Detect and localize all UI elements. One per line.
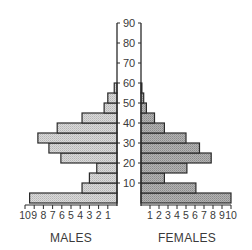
male-tick-label: 2 bbox=[96, 209, 102, 221]
axes: 1020304050607080901098765432112345678910 bbox=[19, 17, 237, 221]
male-tick-label: 10 bbox=[19, 209, 31, 221]
male-tick-label: 3 bbox=[86, 209, 92, 221]
age-tick-label: 10 bbox=[123, 177, 135, 189]
age-tick-label: 50 bbox=[123, 97, 135, 109]
female-bar-5-10 bbox=[141, 183, 196, 193]
male-tick-label: 4 bbox=[77, 209, 83, 221]
female-bar-35-40 bbox=[141, 123, 164, 133]
female-tick-label: 7 bbox=[201, 209, 207, 221]
male-bars bbox=[30, 83, 117, 203]
age-tick-label: 40 bbox=[123, 117, 135, 129]
male-bar-5-10 bbox=[82, 183, 117, 193]
female-bar-25-30 bbox=[141, 143, 200, 153]
male-tick-label: 5 bbox=[68, 209, 74, 221]
male-tick-label: 8 bbox=[40, 209, 46, 221]
male-bar-45-50 bbox=[104, 103, 117, 113]
male-bar-40-45 bbox=[82, 113, 117, 123]
male-bar-35-40 bbox=[57, 123, 117, 133]
female-tick-label: 4 bbox=[174, 209, 180, 221]
male-tick-label: 7 bbox=[50, 209, 56, 221]
female-tick-label: 10 bbox=[225, 209, 237, 221]
population-pyramid-chart: 1020304050607080901098765432112345678910… bbox=[0, 0, 252, 250]
female-bar-15-20 bbox=[141, 163, 187, 173]
male-tick-label: 9 bbox=[31, 209, 37, 221]
female-bar-0-5 bbox=[141, 193, 231, 203]
female-bar-10-15 bbox=[141, 173, 164, 183]
male-bar-30-35 bbox=[38, 133, 117, 143]
female-axis-title: FEMALES bbox=[158, 231, 216, 245]
age-tick-label: 90 bbox=[123, 17, 135, 29]
age-tick-label: 60 bbox=[123, 77, 135, 89]
male-bar-15-20 bbox=[97, 163, 117, 173]
male-bar-50-55 bbox=[108, 93, 117, 103]
female-tick-label: 3 bbox=[165, 209, 171, 221]
male-bar-10-15 bbox=[89, 173, 117, 183]
male-bar-20-25 bbox=[61, 153, 117, 163]
female-bar-45-50 bbox=[141, 103, 146, 113]
age-tick-label: 20 bbox=[123, 157, 135, 169]
male-axis-title: MALES bbox=[50, 231, 92, 245]
female-bar-30-35 bbox=[141, 133, 186, 143]
male-tick-label: 1 bbox=[105, 209, 111, 221]
male-tick-label: 6 bbox=[59, 209, 65, 221]
age-tick-label: 80 bbox=[123, 37, 135, 49]
age-tick-label: 30 bbox=[123, 137, 135, 149]
female-tick-label: 5 bbox=[183, 209, 189, 221]
female-bars bbox=[141, 83, 231, 203]
female-tick-label: 8 bbox=[210, 209, 216, 221]
female-bar-40-45 bbox=[141, 113, 155, 123]
age-tick-label: 70 bbox=[123, 57, 135, 69]
female-tick-label: 6 bbox=[192, 209, 198, 221]
male-bar-0-5 bbox=[30, 193, 117, 203]
male-bar-25-30 bbox=[49, 143, 117, 153]
female-tick-label: 2 bbox=[156, 209, 162, 221]
female-tick-label: 1 bbox=[147, 209, 153, 221]
female-bar-20-25 bbox=[141, 153, 211, 163]
